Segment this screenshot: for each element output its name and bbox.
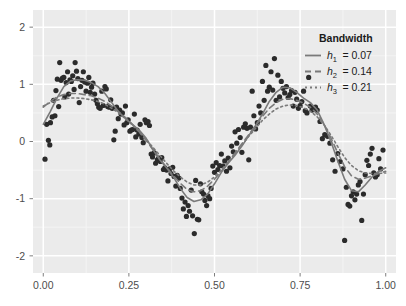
scatter-point bbox=[268, 69, 273, 74]
legend-title: Bandwidth bbox=[319, 32, 373, 44]
scatter-point bbox=[229, 143, 234, 148]
scatter-smoothing-plot: 0.000.250.500.751.00 210-1-2 Bandwidthh1… bbox=[0, 0, 406, 306]
scatter-point bbox=[250, 89, 255, 94]
x-axis-tick-label: 0.75 bbox=[290, 279, 311, 291]
scatter-point bbox=[65, 69, 70, 74]
scatter-point bbox=[186, 203, 191, 208]
scatter-point bbox=[275, 73, 280, 78]
scatter-point bbox=[138, 122, 143, 127]
y-axis-tick-label: 1 bbox=[19, 78, 25, 90]
scatter-point bbox=[70, 73, 75, 78]
scatter-point bbox=[279, 79, 284, 84]
scatter-point bbox=[57, 60, 62, 65]
scatter-point bbox=[47, 142, 52, 147]
scatter-point bbox=[190, 213, 195, 218]
scatter-point bbox=[282, 90, 287, 95]
scatter-point bbox=[330, 157, 335, 162]
scatter-point bbox=[260, 79, 265, 84]
scatter-point bbox=[306, 75, 311, 80]
scatter-point bbox=[111, 137, 116, 142]
chart-figure: 0.000.250.500.751.00 210-1-2 Bandwidthh1… bbox=[0, 0, 406, 306]
scatter-point bbox=[256, 103, 261, 108]
scatter-point bbox=[376, 156, 381, 161]
scatter-point bbox=[359, 218, 364, 223]
scatter-point bbox=[81, 69, 86, 74]
scatter-point bbox=[219, 151, 224, 156]
scatter-point bbox=[380, 147, 385, 152]
scatter-point bbox=[196, 217, 201, 222]
scatter-point bbox=[272, 56, 277, 61]
scatter-point bbox=[239, 150, 244, 155]
scatter-point bbox=[234, 141, 239, 146]
scatter-point bbox=[238, 135, 243, 140]
scatter-point bbox=[61, 75, 66, 80]
scatter-point bbox=[56, 104, 61, 109]
scatter-point bbox=[46, 138, 51, 143]
x-axis-tick-label: 0.50 bbox=[204, 279, 225, 291]
scatter-point bbox=[342, 238, 347, 243]
scatter-point bbox=[192, 231, 197, 236]
scatter-point bbox=[132, 111, 137, 116]
scatter-point bbox=[251, 113, 256, 118]
x-axis-tick-label: 1.00 bbox=[376, 279, 397, 291]
scatter-point bbox=[116, 116, 121, 121]
scatter-point bbox=[77, 100, 82, 105]
scatter-point bbox=[74, 69, 79, 74]
scatter-point bbox=[207, 196, 212, 201]
scatter-point bbox=[364, 158, 369, 163]
scatter-point bbox=[262, 98, 267, 103]
scatter-point bbox=[73, 60, 78, 65]
scatter-point bbox=[52, 113, 57, 118]
scatter-point bbox=[53, 88, 58, 93]
scatter-point bbox=[243, 121, 248, 126]
scatter-point bbox=[301, 89, 306, 94]
scatter-point bbox=[104, 86, 109, 91]
y-axis-tick-label: 0 bbox=[19, 135, 25, 147]
scatter-point bbox=[277, 94, 282, 99]
scatter-point bbox=[141, 140, 146, 145]
scatter-point bbox=[204, 203, 209, 208]
x-axis-tick-label: 0.25 bbox=[119, 279, 140, 291]
scatter-point bbox=[369, 146, 374, 151]
scatter-point bbox=[263, 63, 268, 68]
scatter-point bbox=[184, 214, 189, 219]
scatter-point bbox=[352, 197, 357, 202]
scatter-point bbox=[361, 192, 366, 197]
scatter-point bbox=[42, 157, 47, 162]
y-axis-tick-label: 2 bbox=[19, 21, 25, 33]
scatter-point bbox=[165, 178, 170, 183]
scatter-point bbox=[366, 163, 371, 168]
scatter-point bbox=[368, 151, 373, 156]
scatter-point bbox=[48, 120, 53, 125]
scatter-point bbox=[123, 103, 128, 108]
scatter-point bbox=[270, 87, 275, 92]
scatter-point bbox=[332, 169, 337, 174]
scatter-point bbox=[187, 209, 192, 214]
scatter-point bbox=[86, 75, 91, 80]
scatter-point bbox=[147, 123, 152, 128]
scatter-point bbox=[193, 178, 198, 183]
scatter-point bbox=[113, 129, 118, 134]
scatter-point bbox=[71, 87, 76, 92]
scatter-point bbox=[236, 127, 241, 132]
scatter-point bbox=[78, 84, 83, 89]
scatter-point bbox=[181, 206, 186, 211]
scatter-point bbox=[347, 204, 352, 209]
y-axis-tick-label: -2 bbox=[16, 250, 25, 262]
scatter-point bbox=[227, 165, 232, 170]
y-axis-tick-label: -1 bbox=[16, 192, 25, 204]
scatter-point bbox=[246, 157, 251, 162]
x-axis-tick-label: 0.00 bbox=[33, 279, 54, 291]
scatter-point bbox=[88, 90, 93, 95]
